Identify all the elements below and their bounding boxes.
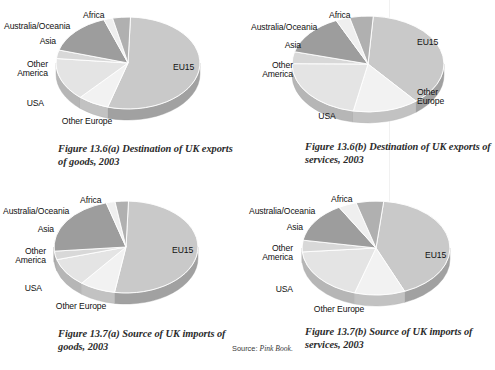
figure-caption-fig-13-7-b: Figure 13.7(b) Source of UK imports of s… <box>305 326 490 351</box>
slice-label-usa: USA <box>8 284 42 294</box>
slice-label-australia-oceania: Australia/Oceania <box>3 207 69 217</box>
figure-caption-fig-13-6-b: Figure 13.6(b) Destination of UK exports… <box>305 141 495 166</box>
slice-label-other-america-line2: America <box>0 69 48 79</box>
slice-label-asia: Asia <box>263 223 303 233</box>
slice-label-australia-oceania: Australia/Oceania <box>251 23 317 33</box>
slice-label-asia: Asia <box>20 37 56 47</box>
slice-label-other-europe: Other Europe <box>293 305 385 315</box>
slice-label-eu15: EU15 <box>425 251 446 261</box>
slice-label-asia: Asia <box>16 225 54 235</box>
source-note: Source: Pink Book. <box>232 344 293 353</box>
slice-label-other-america-line2: America <box>245 253 293 263</box>
slice-label-africa: Africa <box>329 11 350 21</box>
slice-label-other-america-line2: America <box>245 70 293 80</box>
slice-label-other-europe: Other Europe <box>36 302 126 312</box>
slice-label-usa: USA <box>307 112 347 122</box>
slice-label-africa: Africa <box>80 196 101 206</box>
slice-label-other-america-line2: America <box>0 256 46 266</box>
slice-label-australia-oceania: Australia/Oceania <box>249 207 315 217</box>
slice-label-africa: Africa <box>331 195 352 205</box>
slice-label-australia-oceania: Australia/Oceania <box>4 22 70 32</box>
slice-label-asia: Asia <box>261 41 301 51</box>
slice-label-usa: USA <box>12 99 44 109</box>
slice-label-eu15: EU15 <box>173 63 194 73</box>
source-note-prefix: Source: <box>232 344 257 353</box>
slice-label-usa: USA <box>255 285 293 295</box>
slice-label-other-europe: Other Europe <box>44 117 130 127</box>
figure-caption-fig-13-7-a: Figure 13.7(a) Source of UK imports of g… <box>58 328 233 353</box>
slice-label-other-europe-line2: Europe <box>417 97 444 107</box>
figure-caption-fig-13-6-a: Figure 13.6(a) Destination of UK exports… <box>58 143 233 168</box>
slice-label-africa: Africa <box>83 11 104 21</box>
slice-label-eu15: EU15 <box>417 38 438 48</box>
slice-label-eu15: EU15 <box>172 246 193 256</box>
source-note-title: Pink Book. <box>260 344 293 353</box>
